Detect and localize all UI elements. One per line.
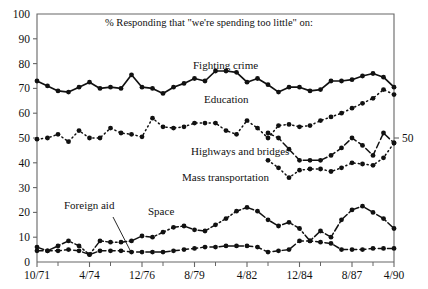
data-point — [308, 123, 313, 128]
x-tick-label: 12/84 — [286, 269, 312, 281]
data-point — [381, 246, 386, 251]
data-point — [276, 136, 281, 141]
data-point — [140, 134, 145, 139]
data-point — [98, 86, 103, 91]
data-point — [297, 158, 302, 163]
x-tick-label: 4/82 — [237, 269, 258, 281]
data-point — [371, 210, 376, 215]
y-tick-label: 20 — [19, 206, 31, 218]
y-tick-label: 10 — [19, 231, 31, 243]
data-point — [140, 85, 145, 90]
y-tick-label: 80 — [19, 58, 31, 70]
data-point — [339, 79, 344, 84]
data-point — [171, 85, 176, 90]
data-point — [150, 86, 155, 91]
data-point — [297, 85, 302, 90]
data-point — [161, 124, 166, 129]
data-point — [129, 72, 134, 77]
y-tick-label: 60 — [19, 107, 31, 119]
data-point — [266, 136, 271, 141]
data-point — [287, 175, 292, 180]
data-point — [318, 87, 323, 92]
data-point — [108, 248, 113, 253]
data-point — [350, 136, 355, 141]
data-point — [371, 246, 376, 251]
data-point — [245, 244, 250, 249]
data-point — [255, 126, 260, 131]
data-point — [66, 239, 71, 244]
data-point — [140, 234, 145, 239]
data-point — [371, 96, 376, 101]
data-point — [329, 241, 334, 246]
data-point — [266, 158, 271, 163]
data-point — [392, 246, 397, 251]
data-point — [182, 224, 187, 229]
y-tick-label: 70 — [19, 82, 31, 94]
data-point — [224, 244, 229, 249]
data-point — [119, 248, 124, 253]
series-highways-and-bridges: Highways and bridges — [191, 131, 396, 163]
data-point — [150, 235, 155, 240]
data-point — [234, 244, 239, 249]
data-point — [203, 229, 208, 234]
data-point — [381, 131, 386, 136]
data-point — [161, 230, 166, 235]
x-tick-label: 8/87 — [342, 269, 363, 281]
data-point — [381, 87, 386, 92]
data-point — [119, 86, 124, 91]
data-point — [77, 248, 82, 253]
data-point — [329, 235, 334, 240]
data-point — [266, 217, 271, 222]
data-point — [203, 121, 208, 126]
data-point — [371, 153, 376, 158]
data-point — [245, 205, 250, 210]
data-point — [234, 209, 239, 214]
data-point — [192, 227, 197, 232]
data-point — [182, 81, 187, 86]
data-point — [87, 80, 92, 85]
data-point — [339, 217, 344, 222]
data-point — [350, 106, 355, 111]
data-point — [182, 124, 187, 129]
line-chart-svg: 01020304050607080901005010/714/7412/768/… — [0, 0, 428, 289]
data-point — [297, 226, 302, 231]
data-point — [245, 80, 250, 85]
data-point — [360, 74, 365, 79]
data-point — [329, 169, 334, 174]
data-point — [98, 248, 103, 253]
data-point — [318, 118, 323, 123]
x-tick-label: 4/74 — [79, 269, 100, 281]
data-point — [161, 91, 166, 96]
data-point — [392, 85, 397, 90]
data-point — [339, 247, 344, 252]
data-point — [150, 250, 155, 255]
data-point — [56, 244, 61, 249]
data-point — [108, 240, 113, 245]
data-point — [66, 139, 71, 144]
right-axis-label: 50 — [402, 132, 414, 144]
data-point — [224, 128, 229, 133]
data-point — [77, 128, 82, 133]
data-point — [392, 226, 397, 231]
data-point — [287, 247, 292, 252]
data-point — [266, 82, 271, 87]
data-point — [98, 136, 103, 141]
data-point — [308, 167, 313, 172]
data-point — [192, 121, 197, 126]
data-point — [350, 208, 355, 213]
y-tick-label: 40 — [19, 157, 31, 169]
data-point — [276, 165, 281, 170]
data-point — [56, 248, 61, 253]
data-point — [308, 89, 313, 94]
data-point — [266, 131, 271, 136]
data-point — [203, 79, 208, 84]
data-point — [350, 77, 355, 82]
data-point — [308, 239, 313, 244]
data-point — [140, 250, 145, 255]
series-label: Foreign aid — [64, 199, 115, 211]
data-point — [308, 158, 313, 163]
x-tick-label: 4/90 — [384, 269, 405, 281]
data-point — [255, 76, 260, 81]
y-tick-label: 100 — [13, 8, 31, 20]
data-point — [35, 137, 40, 142]
